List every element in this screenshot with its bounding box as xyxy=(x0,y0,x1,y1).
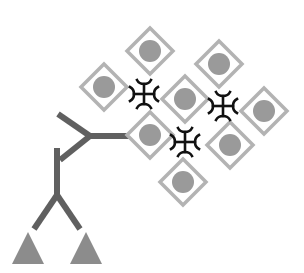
triangle-group xyxy=(12,232,102,264)
antigen-diamond xyxy=(162,76,208,122)
crosslinker-icon xyxy=(171,128,199,156)
receptor-segment xyxy=(34,195,57,229)
diagram-svg xyxy=(0,0,304,273)
triangle-anchor xyxy=(70,232,102,264)
receptor-segment xyxy=(60,136,90,160)
antigen-circle xyxy=(253,100,275,122)
antigen-circle xyxy=(174,88,196,110)
antigen-diamond xyxy=(241,88,287,134)
antigen-diamond xyxy=(196,41,242,87)
antigen-diamond xyxy=(81,64,127,110)
antigen-circle xyxy=(208,53,230,75)
antigen-diamond xyxy=(127,28,173,74)
antigen-circle xyxy=(172,171,194,193)
antigen-circle xyxy=(93,76,115,98)
receptor-segment xyxy=(57,195,80,229)
antigen-diamond xyxy=(207,122,253,168)
receptor xyxy=(34,114,132,229)
antigen-diamond xyxy=(127,112,173,158)
receptor-segment xyxy=(58,114,90,136)
antigen-cluster xyxy=(81,28,287,205)
crosslinker-icon xyxy=(130,80,158,108)
antigen-circle xyxy=(219,134,241,156)
diagram-canvas xyxy=(0,0,304,273)
antigen-diamond xyxy=(160,159,206,205)
antigen-circle xyxy=(139,124,161,146)
antigen-circle xyxy=(139,40,161,62)
triangle-anchor xyxy=(12,232,44,264)
crosslinker-icon xyxy=(209,92,237,120)
